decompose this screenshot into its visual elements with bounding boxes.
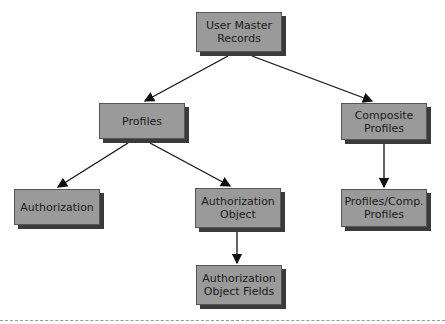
- edge-user-master-records-to-profiles: [145, 56, 228, 101]
- node-authorization-object-fields: Authorization Object Fields: [196, 265, 282, 305]
- edge-profiles-to-authorization: [58, 143, 128, 187]
- node-label: Profiles/Comp. Profiles: [342, 195, 426, 221]
- node-profiles: Profiles: [99, 103, 185, 139]
- node-label: Profiles: [122, 115, 162, 128]
- node-label: Composite Profiles: [342, 109, 426, 135]
- node-label: Authorization Object: [196, 195, 280, 221]
- node-authorization-object: Authorization Object: [195, 188, 281, 228]
- node-label: Authorization Object Fields: [197, 272, 281, 298]
- node-user-master-records: User Master Records: [196, 12, 282, 52]
- node-profiles-comp-profiles: Profiles/Comp. Profiles: [341, 189, 427, 227]
- node-label: Authorization: [20, 201, 94, 214]
- divider-line: [0, 320, 445, 321]
- node-label: User Master Records: [197, 19, 281, 45]
- node-composite-profiles: Composite Profiles: [341, 103, 427, 140]
- node-authorization: Authorization: [14, 189, 100, 225]
- edge-profiles-to-authorization-object: [150, 143, 230, 186]
- edge-user-master-records-to-composite-profiles: [252, 56, 372, 101]
